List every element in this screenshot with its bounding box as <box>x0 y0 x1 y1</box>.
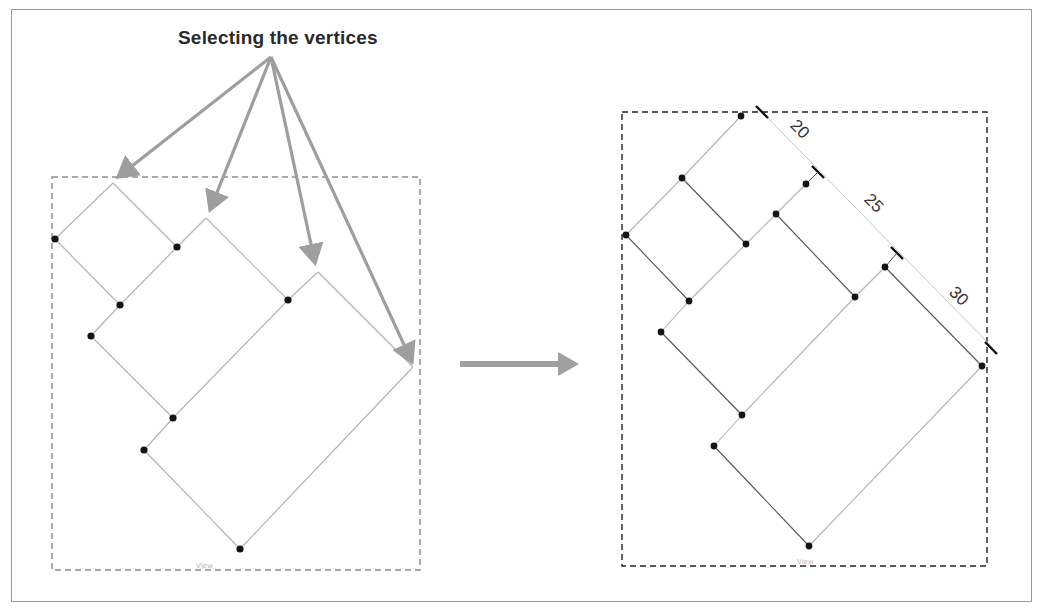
left-view-label: View <box>196 562 213 570</box>
left-sketch-vertices <box>51 235 291 552</box>
sketch-edge <box>144 418 173 450</box>
selection-annotation-arrows <box>118 57 412 362</box>
sketch-edge <box>318 272 413 367</box>
vertex-point[interactable] <box>623 232 630 239</box>
sketch-edge <box>55 239 120 305</box>
sketch-edge <box>144 450 240 549</box>
vertex-point[interactable] <box>743 241 750 248</box>
vertex-point[interactable] <box>803 181 810 188</box>
vertex-point[interactable] <box>51 235 58 242</box>
vertex-point[interactable] <box>686 298 693 305</box>
vertex-point[interactable] <box>140 446 147 453</box>
sketch-edge <box>682 116 741 178</box>
sketch-edge <box>113 183 177 247</box>
vertex-point[interactable] <box>773 211 780 218</box>
vertex-point[interactable] <box>739 412 746 419</box>
vertex-point[interactable] <box>173 243 180 250</box>
vertex-point[interactable] <box>169 414 176 421</box>
sketch-edge <box>55 183 113 239</box>
dimension-value[interactable]: 25 <box>860 190 887 217</box>
sketch-edge <box>776 184 806 214</box>
sketch-edge <box>206 218 288 300</box>
right-sketch-vertices <box>623 113 986 550</box>
sketch-edge <box>177 218 206 247</box>
left-sketch-edges <box>55 183 413 549</box>
sketch-edge <box>776 214 855 297</box>
vertex-point[interactable] <box>679 175 686 182</box>
right-view-label: View <box>797 558 814 566</box>
vertex-point[interactable] <box>658 329 665 336</box>
annotation-arrow <box>271 57 315 263</box>
dimension-labels: 202530 <box>786 116 972 310</box>
sketch-edge <box>626 178 682 235</box>
sketch-edge <box>91 336 173 418</box>
vertex-point[interactable] <box>979 363 986 370</box>
left-panel-before: View <box>51 177 420 570</box>
annotation-arrow <box>271 57 412 362</box>
sketch-edge <box>689 244 746 301</box>
dimension-line <box>758 108 993 348</box>
sketch-edge <box>173 300 288 418</box>
right-selection-box <box>622 112 987 566</box>
vertex-point[interactable] <box>852 294 859 301</box>
vertex-point[interactable] <box>711 443 718 450</box>
sketch-edge <box>885 267 982 366</box>
dimension-value[interactable]: 30 <box>945 283 972 310</box>
sketch-edge <box>661 332 742 415</box>
sketch-edge <box>682 178 746 244</box>
sketch-edge <box>714 446 809 546</box>
right-sketch-edges <box>626 116 982 546</box>
vertex-point[interactable] <box>116 301 123 308</box>
vertex-point[interactable] <box>236 545 243 552</box>
right-panel-after: 202530 View <box>622 106 997 566</box>
sketch-edge <box>746 214 776 244</box>
sketch-edge <box>240 367 413 549</box>
diagram-canvas: View 202530 View <box>0 0 1038 614</box>
sketch-edge <box>288 272 318 300</box>
left-selection-box <box>52 177 420 570</box>
vertex-point[interactable] <box>882 264 889 271</box>
sketch-edge <box>91 305 120 336</box>
vertex-point[interactable] <box>87 332 94 339</box>
vertex-point[interactable] <box>738 113 745 120</box>
sketch-edge <box>626 235 689 301</box>
vertex-point[interactable] <box>284 296 291 303</box>
sketch-edge <box>120 247 177 305</box>
sketch-edge <box>714 415 742 446</box>
sketch-edge <box>809 366 982 546</box>
vertex-point[interactable] <box>806 543 813 550</box>
dimension-value[interactable]: 20 <box>786 116 813 143</box>
sketch-edge <box>661 301 689 332</box>
sketch-edge <box>742 297 855 415</box>
sketch-edge <box>855 267 885 297</box>
